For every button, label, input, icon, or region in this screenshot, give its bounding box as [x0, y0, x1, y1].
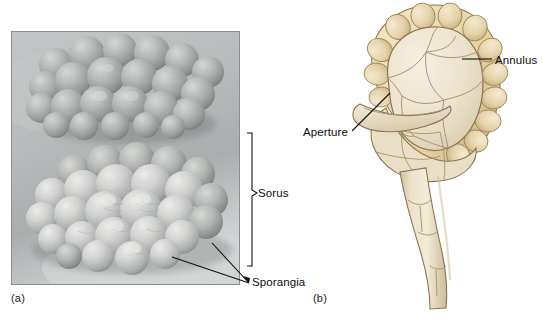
micrograph-artwork: [12, 32, 239, 284]
figure-root: (a): [0, 0, 543, 320]
panel-a-id-label: (a): [11, 292, 25, 304]
panel-a: (a): [0, 0, 280, 320]
panel-b-id-label: (b): [313, 292, 327, 304]
panel-b: (b): [280, 0, 543, 320]
sporangium-diagram: [280, 0, 543, 320]
sem-micrograph-sporangia: [11, 31, 240, 285]
